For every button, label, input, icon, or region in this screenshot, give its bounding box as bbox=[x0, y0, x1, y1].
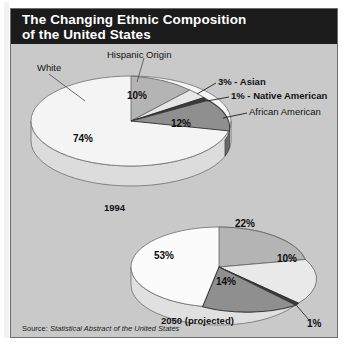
pie-2050-value-african-american: 14% bbox=[216, 276, 236, 287]
pie-1994-value-african-american: 12% bbox=[171, 118, 191, 129]
pie-1994-value-white: 74% bbox=[73, 133, 93, 144]
source-title: Statistical Abstract of the United State… bbox=[50, 324, 179, 333]
label-asian: 3% - Asian bbox=[218, 76, 266, 87]
title-line-2: of the United States bbox=[22, 28, 337, 43]
label-hispanic-origin: Hispanic Origin bbox=[107, 49, 171, 60]
pie-2050-value-hispanic: 22% bbox=[235, 218, 255, 229]
pie-1994 bbox=[31, 58, 247, 186]
plot-area: White Hispanic Origin 3% - Asian 1% - Na… bbox=[11, 44, 337, 337]
figure-root: The Changing Ethnic Composition of the U… bbox=[0, 0, 357, 351]
label-white: White bbox=[37, 62, 61, 73]
pie-charts-svg bbox=[11, 44, 337, 337]
pie-1994-value-hispanic: 10% bbox=[127, 90, 147, 101]
source-note: Source: Statistical Abstract of the Unit… bbox=[22, 324, 179, 333]
chart-frame: The Changing Ethnic Composition of the U… bbox=[10, 8, 338, 338]
source-prefix: Source: bbox=[22, 324, 50, 333]
label-african-american: African American bbox=[249, 106, 321, 117]
pie-2050-value-native-american: 1% bbox=[307, 318, 321, 329]
page-edge-shadow bbox=[4, 2, 9, 338]
pie-2050-value-white: 53% bbox=[154, 250, 174, 261]
title-bar: The Changing Ethnic Composition of the U… bbox=[11, 9, 337, 44]
title-line-1: The Changing Ethnic Composition bbox=[22, 13, 337, 28]
pie-1994-year-label: 1994 bbox=[104, 202, 125, 213]
pie-2050-value-asian: 10% bbox=[277, 253, 297, 264]
label-native-american: 1% - Native American bbox=[231, 90, 327, 101]
